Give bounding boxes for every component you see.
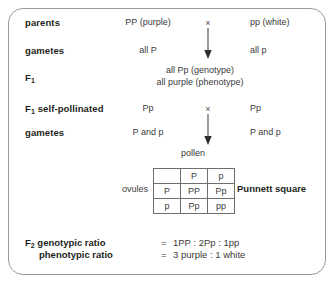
f2-genotypic-ratio-value: 1PP : 2Pp : 1pp <box>173 237 239 248</box>
row-label-parents: parents <box>25 17 60 28</box>
punnett-col-header-1: p <box>208 169 235 184</box>
f2-phenotypic-ratio-equals: = <box>161 249 167 260</box>
table-row: P PP Pp <box>154 184 235 199</box>
punnett-square-grid: P p P PP Pp p Pp pp <box>153 168 235 214</box>
down-arrow-f1-to-f2 <box>203 114 214 149</box>
f1-result-block: all Pp (genotype) all purple (phenotype) <box>156 65 243 88</box>
punnett-col-header-0: P <box>181 169 208 184</box>
f1-self-right-genotype: Pp <box>250 103 261 113</box>
punnett-row-header-0: P <box>154 184 181 199</box>
f2-phenotypic-ratio-label: phenotypic ratio <box>39 249 113 260</box>
table-row: P p <box>154 169 235 184</box>
f2-genotypic-ratio-line: F2 genotypic ratio = 1PP : 2Pp : 1pp <box>25 237 105 248</box>
row-label-f1-subscript: 1 <box>31 77 35 84</box>
punnett-cell-1-0: Pp <box>181 199 208 214</box>
row-label-gametes-parental: gametes <box>25 45 64 56</box>
parents-right-genotype: pp (white) <box>250 17 290 27</box>
row-label-f1: F1 <box>25 72 35 83</box>
cross-symbol-parents: × <box>205 18 210 28</box>
down-arrow-parents-to-f1 <box>203 28 214 63</box>
row-label-gametes-f1-text: gametes <box>25 127 64 138</box>
gametes-parental-left: all P <box>139 45 157 55</box>
row-label-f1-self-pollinated: F1 self-pollinated <box>25 103 104 114</box>
table-row: p Pp pp <box>154 199 235 214</box>
f2-genotypic-ratio-label: F2 genotypic ratio <box>25 237 105 248</box>
f2-genotypic-ratio-label-text: F <box>25 237 31 248</box>
punnett-cell-0-1: Pp <box>208 184 235 199</box>
row-label-gametes-parental-text: gametes <box>25 45 64 56</box>
punnett-square-caption: Punnett square <box>237 183 306 194</box>
row-label-gametes-f1: gametes <box>25 127 64 138</box>
gametes-f1-right: P and p <box>250 127 281 137</box>
row-label-f1-self-rest: self-pollinated <box>35 103 104 114</box>
gametes-parental-right: all p <box>250 45 267 55</box>
f2-genotypic-ratio-equals: = <box>161 237 167 248</box>
parents-left-genotype: PP (purple) <box>125 17 170 27</box>
ovules-axis-label: ovules <box>122 184 148 194</box>
row-label-parents-text: parents <box>25 17 60 28</box>
f1-genotype-line: all Pp (genotype) <box>156 65 243 77</box>
f2-genotypic-ratio-label-rest: genotypic ratio <box>35 237 106 248</box>
punnett-row-header-1: p <box>154 199 181 214</box>
f2-phenotypic-ratio-label-rest: phenotypic ratio <box>39 249 113 260</box>
f2-genotypic-ratio-label-subscript: 2 <box>31 242 35 249</box>
f1-self-left-genotype: Pp <box>142 103 153 113</box>
f2-phenotypic-ratio-line: phenotypic ratio = 3 purple : 1 white <box>39 249 113 260</box>
punnett-corner-cell <box>154 169 181 184</box>
punnett-cell-1-1: pp <box>208 199 235 214</box>
f2-phenotypic-ratio-value: 3 purple : 1 white <box>173 249 245 260</box>
cross-symbol-f1-self: × <box>205 104 210 114</box>
punnett-cell-0-0: PP <box>181 184 208 199</box>
row-label-f1-self-subscript: 1 <box>31 108 35 115</box>
gametes-f1-left: P and p <box>133 127 164 137</box>
pollen-axis-label: pollen <box>181 148 205 158</box>
f1-phenotype-line: all purple (phenotype) <box>156 77 243 89</box>
